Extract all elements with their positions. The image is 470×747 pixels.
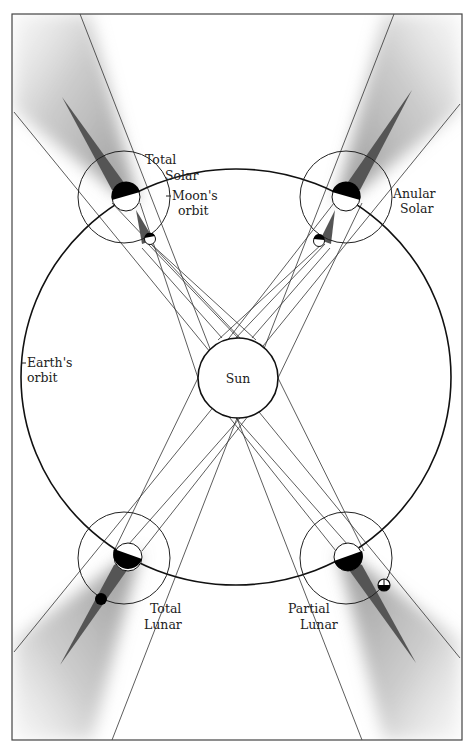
moon-partial-lunar — [378, 579, 390, 591]
total-lunar-label-1: Total — [150, 601, 181, 616]
total-solar-label-2: Solar — [165, 168, 199, 183]
moon-total-lunar — [95, 593, 107, 605]
moon-anular-solar — [314, 234, 325, 247]
earths-orbit-label-2: orbit — [27, 370, 58, 385]
earth-total-lunar — [113, 543, 142, 571]
moons-orbit-label-1: Moon's — [172, 188, 218, 203]
earths-orbit-label-1: Earth's — [27, 355, 72, 370]
moons-orbit-label-2: orbit — [178, 203, 209, 218]
anular-solar-label-2: Solar — [400, 201, 434, 216]
earth-partial-lunar — [334, 543, 363, 571]
anular-solar-label-1: Anular — [392, 186, 436, 201]
leader-lines — [22, 196, 171, 363]
earth-anular-solar — [332, 181, 361, 211]
moon-total-solar — [145, 233, 156, 245]
earth-total-solar — [111, 181, 140, 211]
total-solar-label-1: Total — [145, 152, 176, 167]
total-lunar-label-2: Lunar — [144, 617, 182, 632]
partial-lunar-label-2: Lunar — [300, 617, 338, 632]
sun-label: Sun — [226, 371, 251, 386]
partial-lunar-label-1: Partial — [288, 601, 330, 616]
eclipse-diagram: Sun Total Solar Moon's orbit Anular Sola… — [0, 0, 470, 747]
